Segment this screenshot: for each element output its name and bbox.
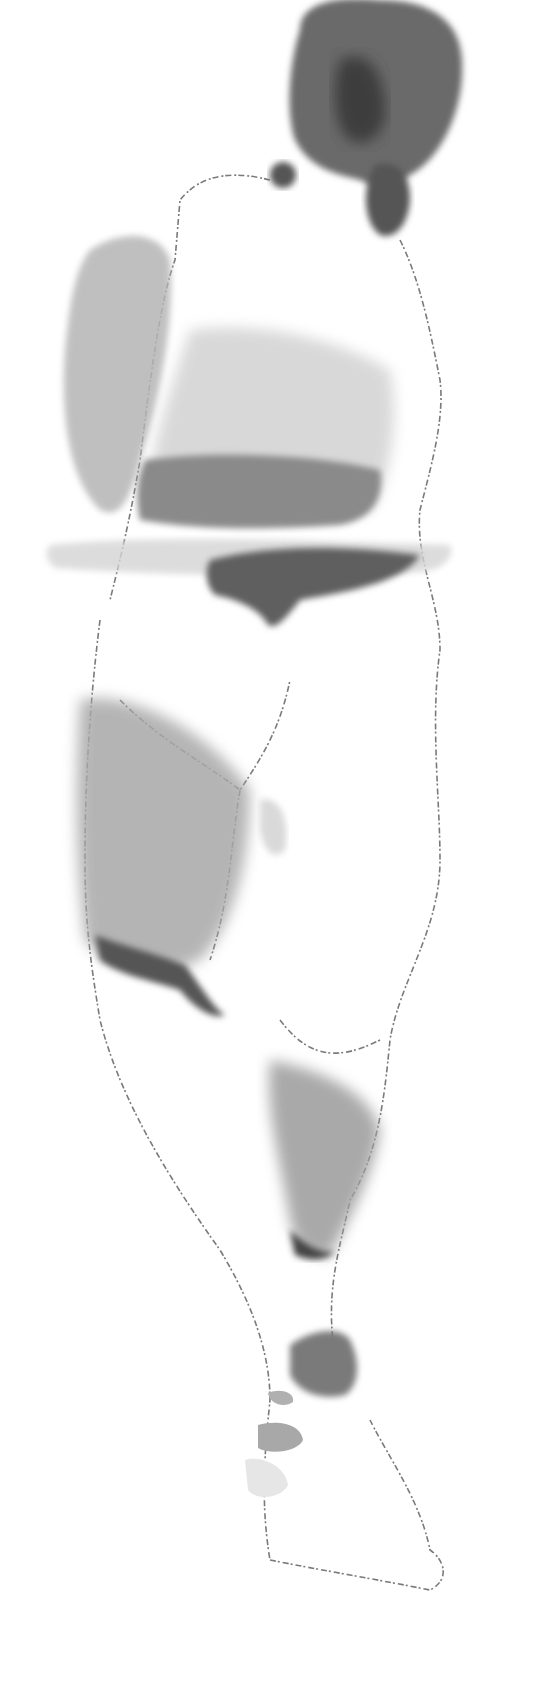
underwear-wash — [207, 548, 420, 626]
calf-wash — [269, 1060, 380, 1256]
artwork-canvas — [0, 0, 536, 1686]
heel-wash — [290, 1331, 357, 1397]
watercolor-figure — [0, 0, 536, 1686]
thigh-wash — [77, 698, 250, 970]
waist-wash — [138, 455, 381, 528]
head-hair — [270, 0, 462, 236]
